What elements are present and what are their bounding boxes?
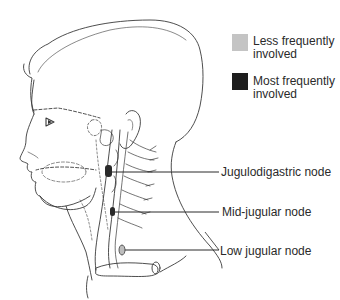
low-jugular-node-label: Low jugular node [220, 244, 311, 258]
legend-swatch-most-frequent [232, 73, 248, 90]
jugulodigastric-node-marker [105, 165, 112, 177]
legend-label-less-frequent: Less frequently involved [253, 35, 340, 61]
ear [120, 111, 140, 149]
skull-outline [29, 20, 203, 142]
jugulodigastric-node-label: Jugulodigastric node [221, 165, 331, 179]
clavicle [96, 263, 158, 277]
low-jugular-node-marker [119, 245, 125, 255]
mid-jugular-node-label: Mid-jugular node [222, 205, 311, 219]
legend-label-most-frequent: Most frequently involved [253, 75, 340, 101]
legend-swatch-less-frequent [232, 34, 248, 51]
